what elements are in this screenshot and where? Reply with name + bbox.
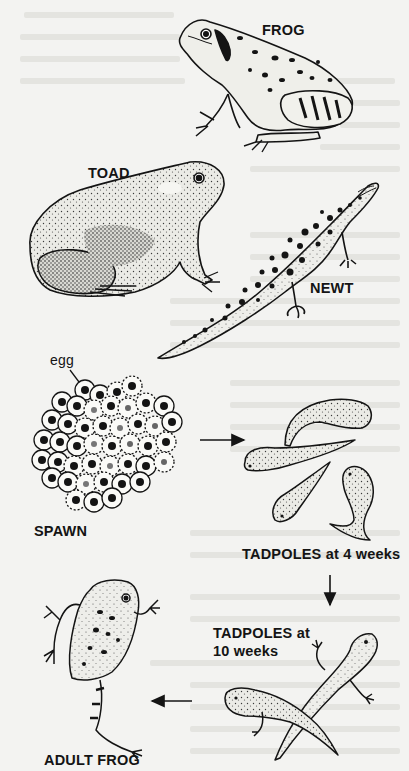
label-frog: FROG <box>262 22 305 39</box>
label-adult-frog: ADULT FROG <box>44 752 140 769</box>
label-tadpoles-10-weeks-line1: TADPOLES at <box>213 625 310 642</box>
tadpole-icon <box>244 399 373 540</box>
label-newt: NEWT <box>310 280 354 297</box>
label-tadpoles-4-weeks: TADPOLES at 4 weeks <box>242 546 400 563</box>
frog-life-cycle-diagram: FROG TOAD NEWT egg SPAWN TADPOLES at 4 w… <box>0 0 409 771</box>
frogspawn-icon <box>32 370 182 512</box>
toad-icon <box>30 162 224 297</box>
frog-icon <box>44 580 160 760</box>
label-toad: TOAD <box>88 165 130 182</box>
label-tadpoles-10-weeks-line2: 10 weeks <box>213 643 278 660</box>
label-egg: egg <box>50 352 74 368</box>
frog-icon <box>179 20 352 152</box>
label-spawn: SPAWN <box>34 523 87 540</box>
